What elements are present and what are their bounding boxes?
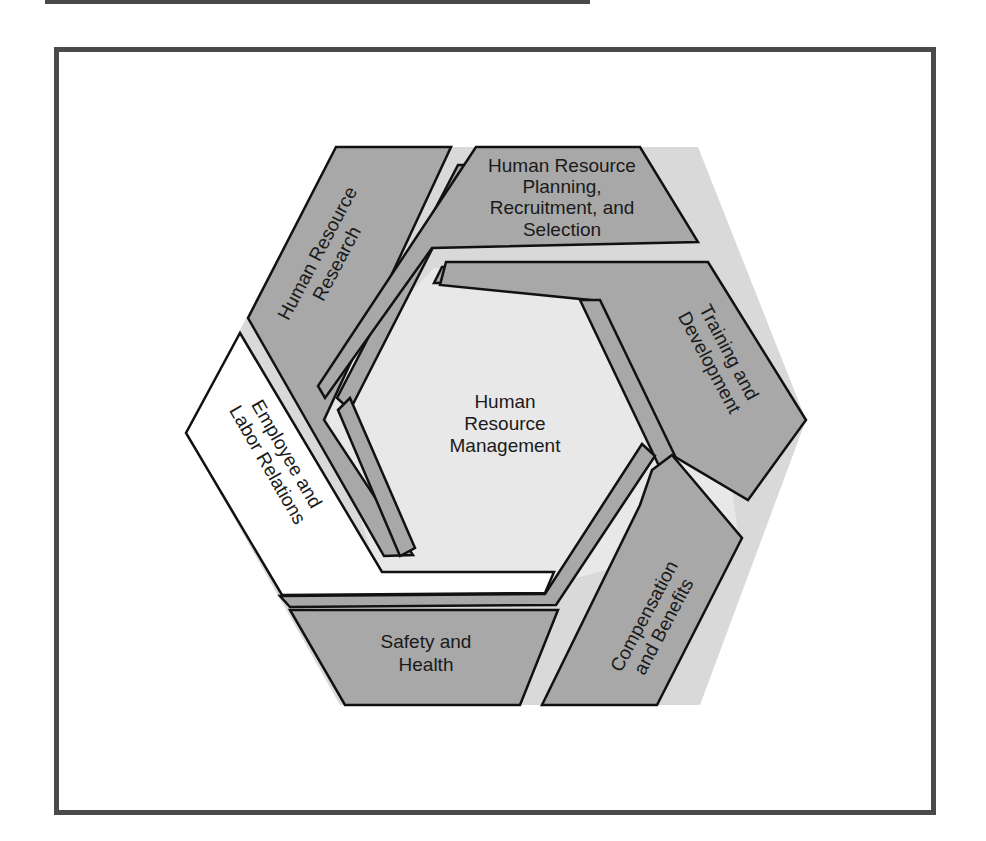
svg-text:Safety and: Safety and [381, 631, 472, 652]
svg-text:Planning,: Planning, [522, 176, 601, 197]
svg-text:Recruitment, and: Recruitment, and [490, 197, 635, 218]
svg-text:Selection: Selection [523, 219, 601, 240]
hrm-wheel-diagram: Human Resource Management Human Resource… [0, 0, 986, 841]
svg-text:Health: Health [399, 654, 454, 675]
svg-text:Human Resource: Human Resource [488, 155, 636, 176]
svg-text:Human: Human [474, 391, 535, 412]
svg-text:Resource: Resource [464, 413, 545, 434]
svg-text:Management: Management [450, 435, 562, 456]
